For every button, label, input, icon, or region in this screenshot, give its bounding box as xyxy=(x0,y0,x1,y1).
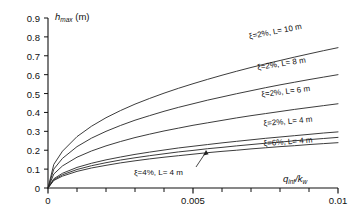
x-axis-title-divisor: /k xyxy=(295,173,302,184)
y-axis-title-unit: (m) xyxy=(73,11,90,22)
x-tick-label-0.005: 0.005 xyxy=(173,195,213,206)
y-axis-title: hmax (m) xyxy=(55,11,89,23)
x-tick-label-0.01: 0.01 xyxy=(318,195,358,206)
y-tick-label-0.3: 0.3 xyxy=(14,126,40,137)
y-tick-label-0.9: 0.9 xyxy=(14,13,40,24)
annotation-label-xi4-L4: ξ=4%, L= 4 m xyxy=(134,168,183,177)
annotation-arrow xyxy=(196,150,209,167)
x-axis-title: qinf/kw xyxy=(283,173,307,185)
x-axis-title-subscript-2: w xyxy=(303,178,308,185)
x-tick-label-0: 0 xyxy=(28,195,68,206)
y-axis-title-subscript: max xyxy=(60,16,72,23)
x-axis-ticks xyxy=(48,188,338,194)
y-tick-label-0.8: 0.8 xyxy=(14,32,40,43)
y-tick-label-0.5: 0.5 xyxy=(14,89,40,100)
y-tick-label-0.2: 0.2 xyxy=(14,145,40,156)
y-tick-label-0.6: 0.6 xyxy=(14,70,40,81)
chart-canvas xyxy=(0,0,358,224)
axis-lines xyxy=(48,18,338,188)
y-axis-ticks xyxy=(44,18,48,188)
y-tick-label-0: 0 xyxy=(14,183,40,194)
chart-figure: 0.9 0.8 0.7 0.6 0.5 0.4 0.3 0.2 0.1 0 0 … xyxy=(0,0,358,224)
y-tick-label-0.1: 0.1 xyxy=(14,164,40,175)
y-tick-label-0.7: 0.7 xyxy=(14,51,40,62)
y-tick-label-0.4: 0.4 xyxy=(14,107,40,118)
